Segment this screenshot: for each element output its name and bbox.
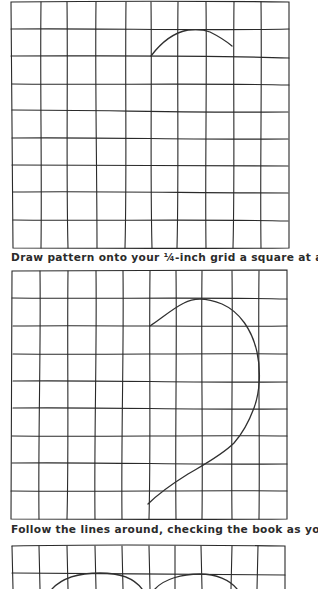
grid-lines	[12, 545, 285, 589]
pattern-curve-left	[52, 573, 142, 589]
grid-figure-3	[0, 0, 318, 589]
pattern-curve-right	[155, 574, 237, 589]
